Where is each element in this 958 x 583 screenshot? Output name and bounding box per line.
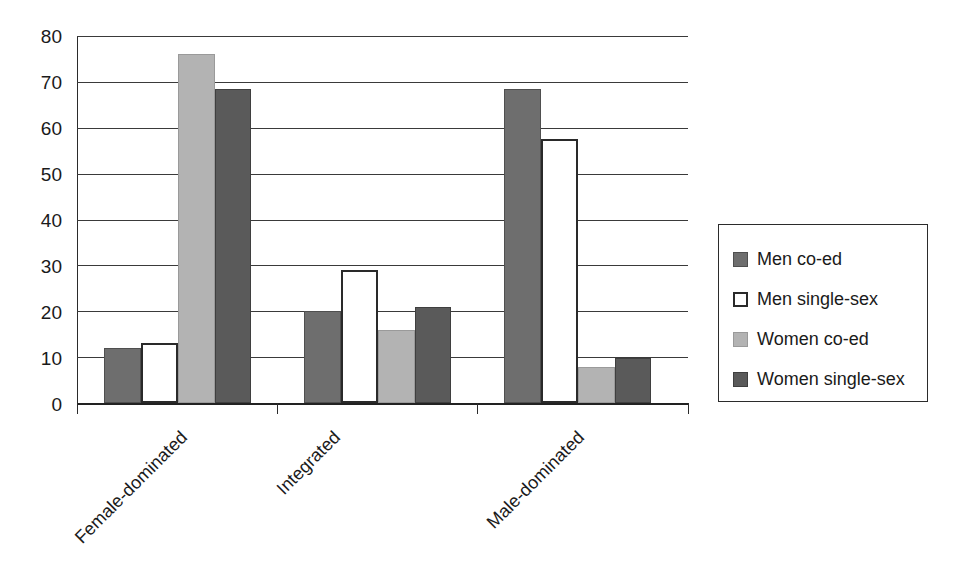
bar-women-single-sex xyxy=(415,307,451,403)
legend-swatch-women-single-sex xyxy=(733,372,748,387)
bar-group-integrated xyxy=(304,36,450,403)
bar-women-co-ed xyxy=(578,367,615,403)
legend-label: Men co-ed xyxy=(757,250,842,268)
x-axis-tick xyxy=(688,403,689,414)
legend-label: Men single-sex xyxy=(757,290,878,308)
x-axis-tick xyxy=(477,403,478,414)
bar-men-co-ed xyxy=(304,311,341,403)
y-axis-tick-label: 50 xyxy=(8,165,62,184)
legend-label: Women co-ed xyxy=(757,330,869,348)
plot-area xyxy=(77,36,688,403)
legend-swatch-men-co-ed xyxy=(733,252,748,267)
y-axis-tick-label: 70 xyxy=(8,73,62,92)
x-axis-category-label-male-dominated: Male-dominated xyxy=(459,427,588,556)
bar-women-co-ed xyxy=(178,54,215,403)
y-axis-tick-label: 20 xyxy=(8,303,62,322)
bar-men-single-sex xyxy=(341,270,378,403)
legend-swatch-women-co-ed xyxy=(733,332,748,347)
legend-swatch-men-single-sex xyxy=(733,292,748,307)
bar-women-single-sex xyxy=(215,89,251,403)
y-axis-tick-label: 0 xyxy=(8,395,62,414)
bar-men-co-ed xyxy=(504,89,541,403)
legend-item: Men co-ed xyxy=(733,239,927,279)
x-axis-line xyxy=(77,403,689,405)
x-axis-tick xyxy=(77,403,78,414)
x-axis-category-label-female-dominated: Female-dominated xyxy=(52,427,191,566)
y-axis-tick-label: 80 xyxy=(8,27,62,46)
chart-legend: Men co-ed Men single-sex Women co-ed Wom… xyxy=(718,224,928,402)
bar-women-single-sex xyxy=(615,358,651,403)
bar-men-single-sex xyxy=(141,343,178,403)
x-axis-tick xyxy=(277,403,278,414)
legend-item: Men single-sex xyxy=(733,279,927,319)
bar-chart: 80 70 60 50 40 30 20 10 0 xyxy=(0,0,958,583)
bar-group-female-dominated xyxy=(104,36,250,403)
bar-group-male-dominated xyxy=(504,36,650,403)
y-axis-tick-label: 10 xyxy=(8,349,62,368)
legend-item: Women single-sex xyxy=(733,359,927,399)
y-axis-tick-label: 60 xyxy=(8,119,62,138)
x-axis-category-label-integrated: Integrated xyxy=(245,427,344,526)
legend-label: Women single-sex xyxy=(757,370,905,388)
y-axis-labels: 80 70 60 50 40 30 20 10 0 xyxy=(0,0,62,583)
y-axis-tick-label: 30 xyxy=(8,257,62,276)
legend-item: Women co-ed xyxy=(733,319,927,359)
bar-men-single-sex xyxy=(541,139,578,403)
bar-men-co-ed xyxy=(104,348,141,403)
bar-women-co-ed xyxy=(378,330,415,403)
y-axis-tick-label: 40 xyxy=(8,211,62,230)
